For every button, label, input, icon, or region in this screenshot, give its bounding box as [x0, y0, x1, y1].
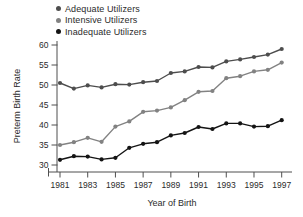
data-point-inadequate-utilizers — [183, 131, 187, 135]
data-point-intensive-utilizers — [238, 74, 242, 78]
data-point-adequate-utilizers — [86, 83, 90, 87]
data-point-inadequate-utilizers — [99, 157, 103, 161]
y-tick-label: 40 — [39, 120, 49, 130]
data-point-inadequate-utilizers — [252, 125, 256, 129]
data-point-adequate-utilizers — [113, 82, 117, 86]
data-point-intensive-utilizers — [58, 143, 62, 147]
y-tick-label: 35 — [39, 140, 49, 150]
data-point-adequate-utilizers — [252, 55, 256, 59]
data-point-adequate-utilizers — [72, 87, 76, 91]
data-point-adequate-utilizers — [58, 81, 62, 85]
data-point-inadequate-utilizers — [210, 127, 214, 131]
data-point-intensive-utilizers — [210, 89, 214, 93]
y-tick-label: 50 — [39, 80, 49, 90]
data-point-adequate-utilizers — [141, 80, 145, 84]
data-point-adequate-utilizers — [224, 59, 228, 63]
data-point-inadequate-utilizers — [169, 133, 173, 137]
data-point-inadequate-utilizers — [238, 121, 242, 125]
y-tick-label: 55 — [39, 60, 49, 70]
data-point-intensive-utilizers — [280, 61, 284, 65]
data-point-inadequate-utilizers — [86, 155, 90, 159]
series-line-adequate-utilizers — [60, 49, 282, 89]
data-point-adequate-utilizers — [127, 83, 131, 87]
x-tick-label: 1995 — [245, 180, 264, 190]
data-point-adequate-utilizers — [169, 71, 173, 75]
data-point-intensive-utilizers — [99, 140, 103, 144]
data-point-intensive-utilizers — [252, 69, 256, 73]
data-point-adequate-utilizers — [210, 65, 214, 69]
data-point-adequate-utilizers — [266, 53, 270, 57]
data-point-adequate-utilizers — [183, 69, 187, 73]
data-point-inadequate-utilizers — [58, 158, 62, 162]
data-point-inadequate-utilizers — [113, 156, 117, 160]
data-point-intensive-utilizers — [72, 140, 76, 144]
y-tick-label: 60 — [39, 40, 49, 50]
data-point-adequate-utilizers — [99, 85, 103, 89]
data-point-inadequate-utilizers — [155, 140, 159, 144]
plot-area: 3035404550556019811983198519871989199119… — [0, 0, 303, 217]
y-tick-label: 30 — [39, 160, 49, 170]
data-point-adequate-utilizers — [280, 47, 284, 51]
x-tick-label: 1997 — [272, 180, 291, 190]
data-point-inadequate-utilizers — [141, 142, 145, 146]
data-point-intensive-utilizers — [113, 125, 117, 129]
x-tick-label: 1985 — [106, 180, 125, 190]
data-point-intensive-utilizers — [141, 110, 145, 114]
data-point-intensive-utilizers — [266, 68, 270, 72]
data-point-intensive-utilizers — [169, 105, 173, 109]
data-point-inadequate-utilizers — [196, 125, 200, 129]
x-tick-label: 1981 — [51, 180, 70, 190]
data-point-intensive-utilizers — [86, 136, 90, 140]
data-point-intensive-utilizers — [183, 98, 187, 102]
data-point-inadequate-utilizers — [266, 124, 270, 128]
x-tick-label: 1987 — [134, 180, 153, 190]
data-point-inadequate-utilizers — [280, 118, 284, 122]
x-tick-label: 1989 — [161, 180, 180, 190]
x-tick-label: 1993 — [217, 180, 236, 190]
data-point-intensive-utilizers — [127, 119, 131, 123]
data-point-inadequate-utilizers — [224, 121, 228, 125]
x-tick-label: 1983 — [78, 180, 97, 190]
data-point-intensive-utilizers — [224, 76, 228, 80]
data-point-adequate-utilizers — [155, 79, 159, 83]
x-tick-label: 1991 — [189, 180, 208, 190]
data-point-adequate-utilizers — [196, 65, 200, 69]
data-point-adequate-utilizers — [238, 57, 242, 61]
x-axis-title: Year of Birth — [147, 198, 196, 208]
preterm-birth-rate-line-chart: Adequate UtilizersIntensive UtilizersIna… — [0, 0, 303, 217]
data-point-intensive-utilizers — [155, 109, 159, 113]
data-point-inadequate-utilizers — [72, 154, 76, 158]
y-tick-label: 45 — [39, 100, 49, 110]
data-point-intensive-utilizers — [196, 90, 200, 94]
data-point-inadequate-utilizers — [127, 146, 131, 150]
